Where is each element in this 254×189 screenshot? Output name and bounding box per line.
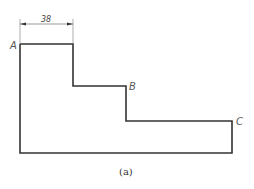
dimension-value: 38 — [41, 15, 51, 24]
arrowhead-left-icon — [20, 23, 26, 26]
point-label-a: A — [9, 40, 17, 51]
point-label-c: C — [236, 116, 243, 127]
stepped-profile-diagram: 38 A B C (a) — [0, 0, 254, 189]
point-label-b: B — [129, 81, 136, 92]
figure-caption: (a) — [119, 166, 133, 177]
profile-outline — [20, 44, 232, 153]
arrowhead-right-icon — [67, 23, 73, 26]
